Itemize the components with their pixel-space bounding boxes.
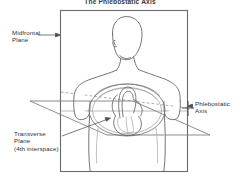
transverse-line-3: (4th interspace) [14, 145, 59, 152]
label-midfrontal-plane: Midfrontal Plane [12, 29, 40, 44]
midfrontal-line-1: Midfrontal [12, 29, 40, 36]
transverse-line-1: Transverse [14, 130, 59, 137]
midfrontal-line-2: Plane [12, 36, 40, 43]
crosshair-icon [182, 101, 194, 116]
transverse-leader [62, 119, 108, 136]
label-transverse-plane: Transverse Plane (4th interspace) [14, 130, 59, 152]
phlebostatic-line-1: Phlebostatic [195, 100, 230, 107]
label-phlebostatic-axis: Phlebostatic Axis [195, 100, 230, 115]
transverse-line-2: Plane [14, 137, 59, 144]
human-torso-icon [74, 17, 181, 172]
phlebostatic-axis-diagram: The Phlebostatic Axis [0, 0, 240, 184]
diagram-canvas [0, 0, 240, 184]
phlebostatic-line-2: Axis [195, 107, 230, 114]
